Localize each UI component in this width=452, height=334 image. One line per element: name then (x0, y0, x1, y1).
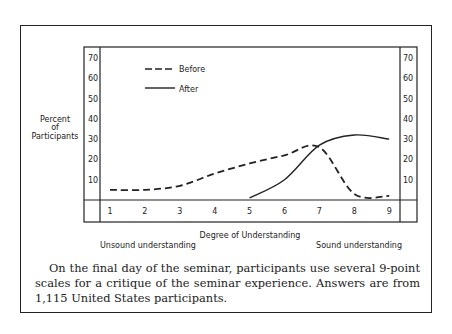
x-tick-label: 9 (387, 207, 392, 216)
legend-after-label: After (179, 85, 199, 94)
y-ticks-right: 10203040506070 (403, 54, 413, 185)
y-ticks-left: 10203040506070 (88, 54, 98, 185)
y-tick-label: 30 (88, 135, 98, 144)
x-tick-label: 1 (107, 207, 112, 216)
y-tick-label: 10 (403, 176, 413, 185)
legend-before-label: Before (179, 65, 205, 74)
x-tick-label: 2 (142, 207, 147, 216)
y-axis-label-line3: Participants (32, 132, 79, 141)
y-tick-label: 40 (88, 115, 98, 124)
x-tick-label: 6 (282, 207, 287, 216)
caption-text: On the final day of the seminar, partici… (35, 261, 420, 305)
y-tick-label: 20 (403, 155, 413, 164)
x-tick-label: 7 (317, 207, 322, 216)
x-tick-label: 3 (177, 207, 182, 216)
x-tick-label: 5 (247, 207, 252, 216)
y-tick-label: 50 (88, 95, 98, 104)
figure-caption: On the final day of the seminar, partici… (35, 261, 420, 306)
y-tick-label: 30 (403, 135, 413, 144)
x-ticks: 123456789 (107, 207, 391, 216)
x-tick-label: 4 (212, 207, 217, 216)
x-axis-label: Degree of Understanding (200, 231, 301, 240)
y-tick-label: 60 (403, 74, 413, 83)
y-tick-label: 40 (403, 115, 413, 124)
right-extreme-label: Sound understanding (316, 241, 402, 250)
y-axis-label-line2: of (51, 123, 59, 132)
left-extreme-label: Unsound understanding (100, 241, 196, 250)
series-before-line (110, 145, 389, 198)
y-tick-label: 20 (88, 155, 98, 164)
y-tick-label: 10 (88, 176, 98, 185)
y-tick-label: 70 (403, 54, 413, 63)
y-tick-label: 50 (403, 95, 413, 104)
series-after-line (250, 135, 390, 198)
x-tick-label: 8 (352, 207, 357, 216)
y-tick-label: 60 (88, 74, 98, 83)
chart-border (84, 47, 417, 222)
y-tick-label: 70 (88, 54, 98, 63)
